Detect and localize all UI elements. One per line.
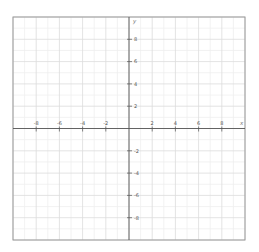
- y-tick-label: -8: [134, 215, 139, 221]
- x-tick-label: -2: [103, 120, 108, 126]
- x-tick-label: 6: [197, 120, 200, 126]
- x-tick-label: 2: [151, 120, 154, 126]
- y-tick-label: 8: [134, 36, 137, 42]
- y-tick-label: -4: [134, 170, 139, 176]
- x-tick-label: 8: [220, 120, 223, 126]
- x-tick-label: -4: [80, 120, 85, 126]
- y-tick-label: 4: [134, 81, 137, 87]
- y-tick-label: -6: [134, 192, 139, 198]
- y-tick-label: 2: [134, 103, 137, 109]
- y-axis-label: y: [132, 18, 137, 25]
- y-tick-label: -2: [134, 148, 139, 154]
- coordinate-plane: -8-6-4-224688642-2-4-6-8 x y: [0, 0, 259, 252]
- x-tick-label: -6: [57, 120, 62, 126]
- x-axis-label: x: [239, 120, 244, 126]
- x-tick-label: -8: [34, 120, 39, 126]
- x-tick-label: 4: [174, 120, 177, 126]
- y-tick-label: 6: [134, 58, 137, 64]
